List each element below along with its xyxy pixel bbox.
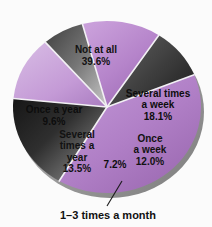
slice-label-line: 13.5% xyxy=(63,163,91,174)
slice-label-line: a week xyxy=(142,99,175,110)
slice-label-line: Not at all xyxy=(75,44,117,55)
slice-label-line: 18.1% xyxy=(144,110,172,121)
slice-label-one-to-three-times-a-month: 7.2% xyxy=(104,159,127,170)
slice-label-line: 9.6% xyxy=(43,115,66,126)
slice-label-line: 12.0% xyxy=(136,155,164,166)
slice-label-line: Several times xyxy=(126,87,191,98)
slice-label-line: Once a year xyxy=(26,104,83,115)
callout-label-one-to-three-times-a-month: 1–3 times a month xyxy=(60,209,156,221)
slice-label-line: a week xyxy=(134,144,167,155)
slice-label-line: Once xyxy=(137,132,162,143)
slice-label-line: 39.6% xyxy=(82,55,110,66)
pie-chart-canvas: Not at all39.6%Several timesa week18.1%O… xyxy=(0,0,212,227)
slice-label-line: Several xyxy=(59,128,95,139)
slice-label-line: times a xyxy=(60,140,95,151)
pie-chart-figure: Not at all39.6%Several timesa week18.1%O… xyxy=(0,0,212,227)
slice-label-once-a-week: Oncea week12.0% xyxy=(134,132,167,166)
slice-label-line: year xyxy=(67,151,88,162)
slice-label-line: 7.2% xyxy=(104,159,127,170)
